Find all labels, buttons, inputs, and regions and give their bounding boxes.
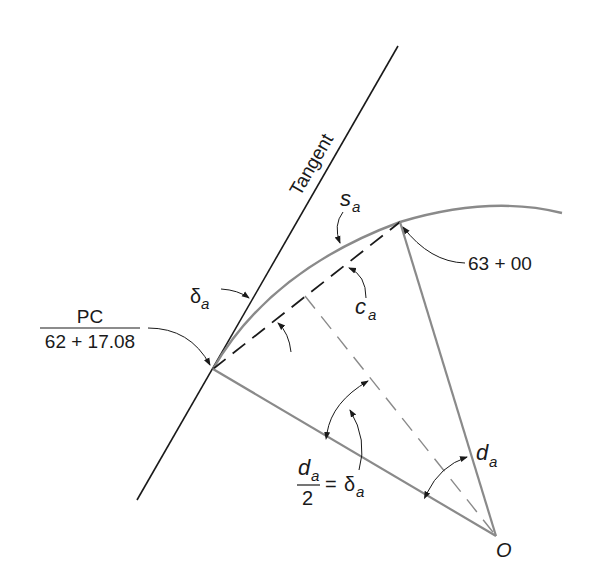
svg-text:s: s — [340, 186, 351, 211]
half-angle-arc-arrow — [327, 381, 368, 433]
svg-text:d: d — [476, 440, 489, 465]
svg-text:a: a — [352, 198, 360, 215]
svg-text:=: = — [325, 473, 337, 495]
svg-text:PC: PC — [77, 306, 103, 327]
center-label: O — [496, 539, 512, 561]
svg-text:a: a — [201, 295, 209, 312]
chord-line — [213, 222, 400, 369]
half-angle-leader — [350, 410, 362, 470]
pc-station-label: PC 62 + 17.08 — [40, 306, 140, 352]
svg-text:a: a — [356, 483, 364, 500]
deflection-angle-arrow — [221, 289, 249, 298]
svg-text:c: c — [355, 294, 366, 319]
arc-length-label: s a — [340, 186, 360, 215]
station-63-label: 63 + 00 — [468, 253, 532, 274]
svg-text:d: d — [298, 455, 311, 480]
tangent-line — [137, 46, 398, 500]
arc-length-arrow — [337, 212, 343, 243]
central-angle-label: d a — [476, 440, 497, 470]
svg-text:a: a — [489, 453, 497, 470]
circular-curve — [213, 206, 562, 369]
station-63-arrow — [403, 227, 465, 263]
svg-text:62 + 17.08: 62 + 17.08 — [45, 331, 135, 352]
deflection-arc-arrow — [278, 323, 291, 352]
central-angle-arc-arrow — [427, 457, 467, 493]
svg-text:δ: δ — [344, 473, 355, 495]
svg-text:2: 2 — [302, 487, 313, 509]
half-angle-label: d a 2 = δ a — [297, 455, 364, 509]
deflection-angle-label: δ a — [190, 285, 209, 312]
svg-text:a: a — [311, 467, 319, 484]
chord-label: c a — [355, 294, 376, 323]
svg-text:a: a — [368, 306, 376, 323]
chord-bisector-line — [305, 296, 496, 536]
svg-text:δ: δ — [190, 285, 201, 307]
pc-arrow — [148, 328, 210, 365]
curve-diagram: Tangent s a c a δ a 63 + 00 PC 62 + 17.0… — [0, 0, 589, 585]
